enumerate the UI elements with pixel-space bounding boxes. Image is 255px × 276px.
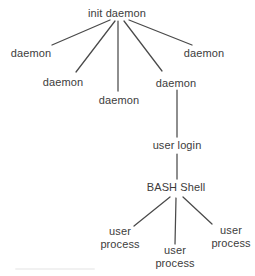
edge-init-daemon-daemon-2: [76, 21, 115, 72]
node-bash-shell: BASH Shell: [147, 181, 205, 194]
node-daemon-3: daemon: [99, 94, 139, 107]
node-user-process-1: user process: [100, 225, 139, 251]
edge-init-daemon-daemon-1: [52, 20, 110, 45]
node-user-login: user login: [153, 139, 202, 152]
node-daemon-2: daemon: [43, 76, 83, 89]
edge-bash-shell-user-process-1: [134, 197, 170, 226]
edge-bash-shell-user-process-2: [175, 198, 176, 244]
node-daemon-4: daemon: [156, 77, 196, 90]
node-user-process-2: user process: [155, 244, 194, 270]
edge-init-daemon-daemon-4: [124, 21, 162, 71]
scan-artifact-line: [15, 268, 95, 270]
edge-init-daemon-daemon-5: [129, 20, 192, 45]
node-daemon-1: daemon: [11, 47, 51, 60]
edge-bash-shell-user-process-3: [183, 197, 212, 224]
node-init-daemon: init daemon: [88, 7, 146, 20]
node-user-process-3: user process: [211, 224, 250, 250]
node-daemon-5: daemon: [184, 47, 224, 60]
process-tree-diagram: init daemon daemon daemon daemon daemon …: [0, 0, 255, 276]
